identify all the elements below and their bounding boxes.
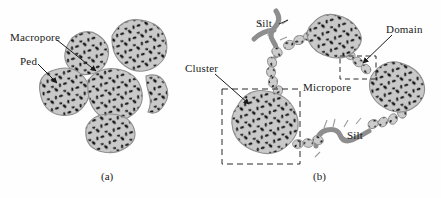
domain-leader bbox=[363, 35, 392, 63]
caption-panel-b: (b) bbox=[313, 170, 326, 182]
label-ped: Ped bbox=[20, 55, 37, 67]
ped-shape bbox=[88, 68, 143, 121]
ped-shape bbox=[112, 20, 167, 72]
label-cluster: Cluster bbox=[185, 62, 218, 74]
figure-artwork bbox=[0, 0, 441, 198]
label-macropore: Macropore bbox=[10, 31, 60, 43]
cluster-right bbox=[370, 62, 425, 112]
ped-shape bbox=[40, 68, 90, 116]
cluster-bottom-left bbox=[232, 91, 298, 154]
label-silt-top: Silt bbox=[256, 17, 272, 29]
ped-shape bbox=[146, 75, 168, 113]
soil-fabric-figure: Macropore Ped (a) Silt Cluster Micropore… bbox=[0, 0, 441, 198]
label-micropore: Micropore bbox=[303, 81, 351, 93]
ped-shape bbox=[86, 114, 135, 153]
cluster-top bbox=[307, 14, 361, 58]
label-domain: Domain bbox=[386, 23, 423, 35]
label-silt-bottom: Silt bbox=[347, 129, 363, 141]
caption-panel-a: (a) bbox=[101, 170, 113, 182]
